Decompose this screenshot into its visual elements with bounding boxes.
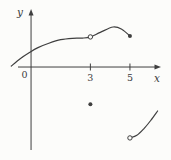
x-axis-label: x	[154, 72, 160, 84]
x-tick-label-5: 5	[127, 72, 133, 83]
graph-geometry: 35	[11, 9, 161, 150]
y-axis-arrowhead	[29, 9, 34, 16]
open-point	[128, 136, 132, 140]
x-tick-label-3: 3	[87, 72, 93, 83]
closed-point	[88, 102, 92, 106]
function-graph: 35 y x 0	[0, 0, 171, 160]
origin-label: 0	[21, 69, 27, 80]
x-axis-arrowhead	[155, 65, 162, 70]
y-axis-label: y	[16, 6, 24, 18]
open-point	[88, 35, 92, 39]
closed-point	[128, 34, 132, 38]
lower-right-branch-curve	[130, 111, 158, 138]
figure-page: 35 y x 0	[0, 0, 171, 160]
upper-branch-curve	[11, 27, 130, 66]
